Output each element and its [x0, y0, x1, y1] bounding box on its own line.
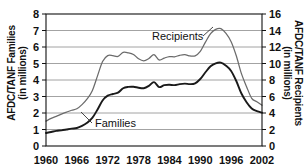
y-tick-label-right: 8: [269, 74, 275, 86]
y-tick-label-right: 14: [269, 25, 282, 37]
series-line-families: [46, 63, 262, 133]
annotation-families: Families: [95, 117, 136, 129]
y-tick-label-left: 3: [33, 91, 39, 103]
y-tick-label-right: 6: [269, 91, 275, 103]
y-tick-label-left: 4: [33, 74, 40, 86]
x-tick-label: 1984: [157, 154, 182, 166]
y-tick-label-left: 2: [33, 107, 39, 119]
y-tick-label-left: 1: [33, 124, 39, 136]
x-tick-label: 1966: [65, 154, 89, 166]
y-tick-label-right: 2: [269, 124, 275, 136]
annotation-recipients: Recipients: [152, 30, 204, 42]
leader-line-families: [81, 112, 92, 123]
y-tick-label-right: 4: [269, 107, 276, 119]
x-tick-label: 1996: [219, 154, 243, 166]
y-tick-label-right: 12: [269, 41, 281, 53]
x-tick-label: 1972: [95, 154, 119, 166]
series-line-recipients: [46, 28, 262, 121]
y-tick-label-right: 0: [269, 140, 275, 152]
y-tick-label-left: 0: [33, 140, 39, 152]
y-tick-label-right: 16: [269, 8, 281, 20]
x-tick-label: 1960: [34, 154, 58, 166]
y-tick-label-left: 7: [33, 25, 39, 37]
plot-area: 0123456780246810121416196019661972197819…: [0, 0, 307, 168]
chart-container: AFDC/TANF Families (in millions) AFDC/TA…: [0, 0, 307, 168]
y-tick-label-left: 6: [33, 41, 39, 53]
y-tick-label-left: 5: [33, 58, 39, 70]
data-series: [46, 28, 262, 133]
series-annotations: RecipientsFamilies: [81, 27, 213, 129]
x-tick-label: 1990: [188, 154, 212, 166]
x-tick-label: 2002: [250, 154, 274, 166]
gridlines: [46, 31, 262, 130]
y-tick-label-left: 8: [33, 8, 39, 20]
y-tick-label-right: 10: [269, 58, 281, 70]
x-tick-label: 1978: [126, 154, 150, 166]
leader-line-recipients: [203, 27, 213, 36]
